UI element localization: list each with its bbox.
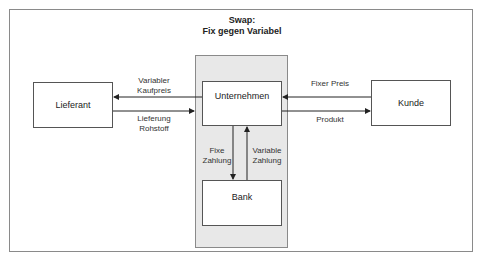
arrows-layer — [0, 0, 483, 274]
